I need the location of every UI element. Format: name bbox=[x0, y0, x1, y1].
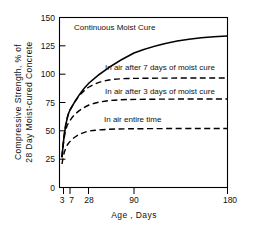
curve-continuous-moist-cure bbox=[62, 36, 227, 157]
chart-figure: 150 125 100 75 50 25 0 3 7 28 90 180 Age… bbox=[0, 0, 254, 227]
x-tick-label-7: 7 bbox=[69, 195, 74, 205]
annotation-in-air-after-7-days: In air after 7 days of moist cure bbox=[105, 63, 215, 72]
x-tick-label-3: 3 bbox=[60, 195, 65, 205]
x-axis-ticks bbox=[64, 188, 228, 195]
x-tick-label-28: 28 bbox=[84, 195, 94, 205]
y-tick-label-0: 0 bbox=[50, 183, 55, 193]
y-tick-label-125: 125 bbox=[41, 41, 55, 51]
plot-frame bbox=[60, 18, 228, 188]
x-tick-label-90: 90 bbox=[129, 195, 139, 205]
y-tick-label-50: 50 bbox=[46, 126, 56, 136]
y-axis-title-line2: 28 Day Moist-cured Concrete bbox=[24, 41, 34, 162]
curve-in-air-entire-time bbox=[62, 129, 227, 165]
x-axis-tick-labels: 3 7 28 90 180 bbox=[60, 195, 238, 205]
x-tick-label-180: 180 bbox=[223, 195, 237, 205]
x-axis-title: Age , Days bbox=[111, 210, 157, 220]
y-tick-label-150: 150 bbox=[41, 13, 55, 23]
annotation-in-air-entire-time: In air entire time bbox=[104, 115, 162, 124]
annotation-in-air-after-3-days: In air after 3 days of moist cure bbox=[105, 87, 215, 96]
y-tick-label-100: 100 bbox=[41, 69, 55, 79]
y-tick-label-75: 75 bbox=[46, 98, 56, 108]
y-tick-label-25: 25 bbox=[46, 154, 56, 164]
y-axis-title-line1: Compressive Strength, % of bbox=[13, 44, 23, 160]
annotation-continuous-moist-cure: Continuous Moist Cure bbox=[74, 23, 156, 32]
curve-in-air-after-3-days bbox=[62, 99, 227, 157]
compressive-strength-vs-age-chart: 150 125 100 75 50 25 0 3 7 28 90 180 Age… bbox=[0, 0, 254, 227]
y-axis-tick-labels: 150 125 100 75 50 25 0 bbox=[41, 13, 55, 193]
